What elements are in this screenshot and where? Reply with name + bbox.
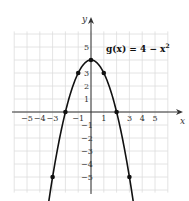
x-tick-label: −3 bbox=[47, 114, 59, 123]
x-tick-label: −4 bbox=[34, 114, 46, 123]
x-tick-label: 5 bbox=[153, 114, 158, 123]
y-tick-label: −5 bbox=[81, 173, 93, 182]
data-point bbox=[76, 71, 81, 76]
data-point bbox=[89, 58, 94, 63]
data-point bbox=[127, 175, 132, 180]
x-tick-label: 3 bbox=[127, 114, 132, 123]
function-label: g(x) = 4 − x2 bbox=[106, 42, 170, 54]
data-point bbox=[114, 110, 119, 115]
y-tick-label: −1 bbox=[81, 121, 93, 130]
x-tick-label: −5 bbox=[21, 114, 33, 123]
y-tick-label: 2 bbox=[84, 82, 89, 91]
y-tick-label: 3 bbox=[84, 69, 89, 78]
graph: x y −5−4−3−11345 5321−1−2−3−4−5 g(x) = 4… bbox=[0, 0, 189, 201]
data-point bbox=[63, 110, 68, 115]
y-tick-label: 5 bbox=[84, 43, 89, 52]
data-point bbox=[102, 71, 107, 76]
x-axis-label: x bbox=[180, 116, 185, 126]
y-axis-label: y bbox=[81, 14, 88, 24]
x-tick-label: 1 bbox=[101, 114, 106, 123]
y-tick-label: −3 bbox=[81, 147, 93, 156]
y-tick-label: −2 bbox=[81, 134, 93, 143]
x-tick-label: 4 bbox=[140, 114, 145, 123]
data-point bbox=[50, 175, 55, 180]
y-tick-label: 1 bbox=[84, 95, 89, 104]
y-tick-label: −4 bbox=[81, 160, 93, 169]
